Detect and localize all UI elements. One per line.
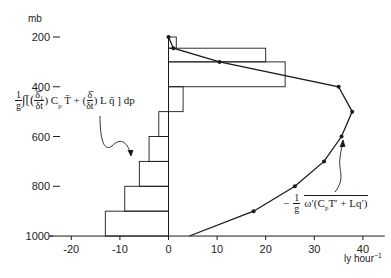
one-over-g: 1 g [293,193,300,214]
data-point-marker [293,184,297,188]
right-annotation-arrow [335,142,343,192]
step-bar [169,62,286,87]
x-axis-unit-exponent: −1 [374,252,382,259]
y-axis-unit: mb [28,13,42,24]
step-bar [125,186,169,211]
data-point-marker [167,35,171,39]
data-point-marker [337,85,341,89]
step-bar [159,112,169,137]
y-tick-label: 800 [32,180,50,192]
left-arrowhead-icon [128,150,133,156]
step-bar [169,48,266,62]
step-bar [139,161,168,186]
data-point-marker [322,159,326,163]
partial-fraction-2: δ̄ δt [86,90,94,111]
x-tick-label: 30 [308,243,320,255]
x-tick-label: 20 [260,243,272,255]
formula-open: [( [26,92,35,107]
fraction-denominator: g [294,204,299,214]
data-point-marker [171,46,175,50]
y-tick-label: 600 [32,131,50,143]
formula-rest: T′ + Lq′) [328,197,367,209]
y-tick-label: 1000 [26,230,50,242]
step-bar [105,211,168,236]
formula-mid-1: ) C [44,94,58,106]
axes: -20-100102030402004006008001000 [26,31,385,255]
step-bar [169,87,184,112]
x-axis-unit-text: ly hour [344,253,375,264]
x-tick-label: -10 [112,243,128,255]
step-bar [149,137,168,162]
data-point-marker [218,60,222,64]
x-tick-label: 10 [211,243,223,255]
formula-mid-2: ) L q̄ ] dp [94,94,135,106]
fraction-denominator: δt [36,101,44,111]
fraction-denominator: g [16,101,21,111]
right-arrowhead-icon [340,140,345,147]
data-point-marker [252,209,256,213]
y-tick-label: 200 [32,31,50,43]
step-bars [105,37,285,236]
left-annotation-arrow [100,116,131,154]
minus-sign: − [283,197,289,209]
data-point-marker [350,110,354,114]
partial-fraction-1: δ̄₁ δt [34,90,44,111]
overbar-expression: ω′(CpT′ + Lq′) [304,195,367,209]
x-tick-label: -20 [63,243,79,255]
annotation-arrows [100,116,345,192]
chart-canvas: -20-100102030402004006008001000 mb ly ho… [0,0,391,278]
right-formula-annotation: − 1 g ω′(CpT′ + Lq′) [283,193,368,214]
formula-body: ω′(C [304,197,325,209]
formula-t-bar: T̄ + ( [62,94,86,106]
one-over-g: 1 g [15,90,22,111]
left-formula-annotation: 1 g ∫[( δ̄₁ δt ) Cp T̄ + ( δ̄ δt ) L q̄ … [15,90,135,111]
fraction-denominator: δt [86,101,94,111]
x-tick-label: 0 [165,243,171,255]
data-point-marker [340,135,344,139]
x-axis-unit: ly hour−1 [344,252,382,264]
